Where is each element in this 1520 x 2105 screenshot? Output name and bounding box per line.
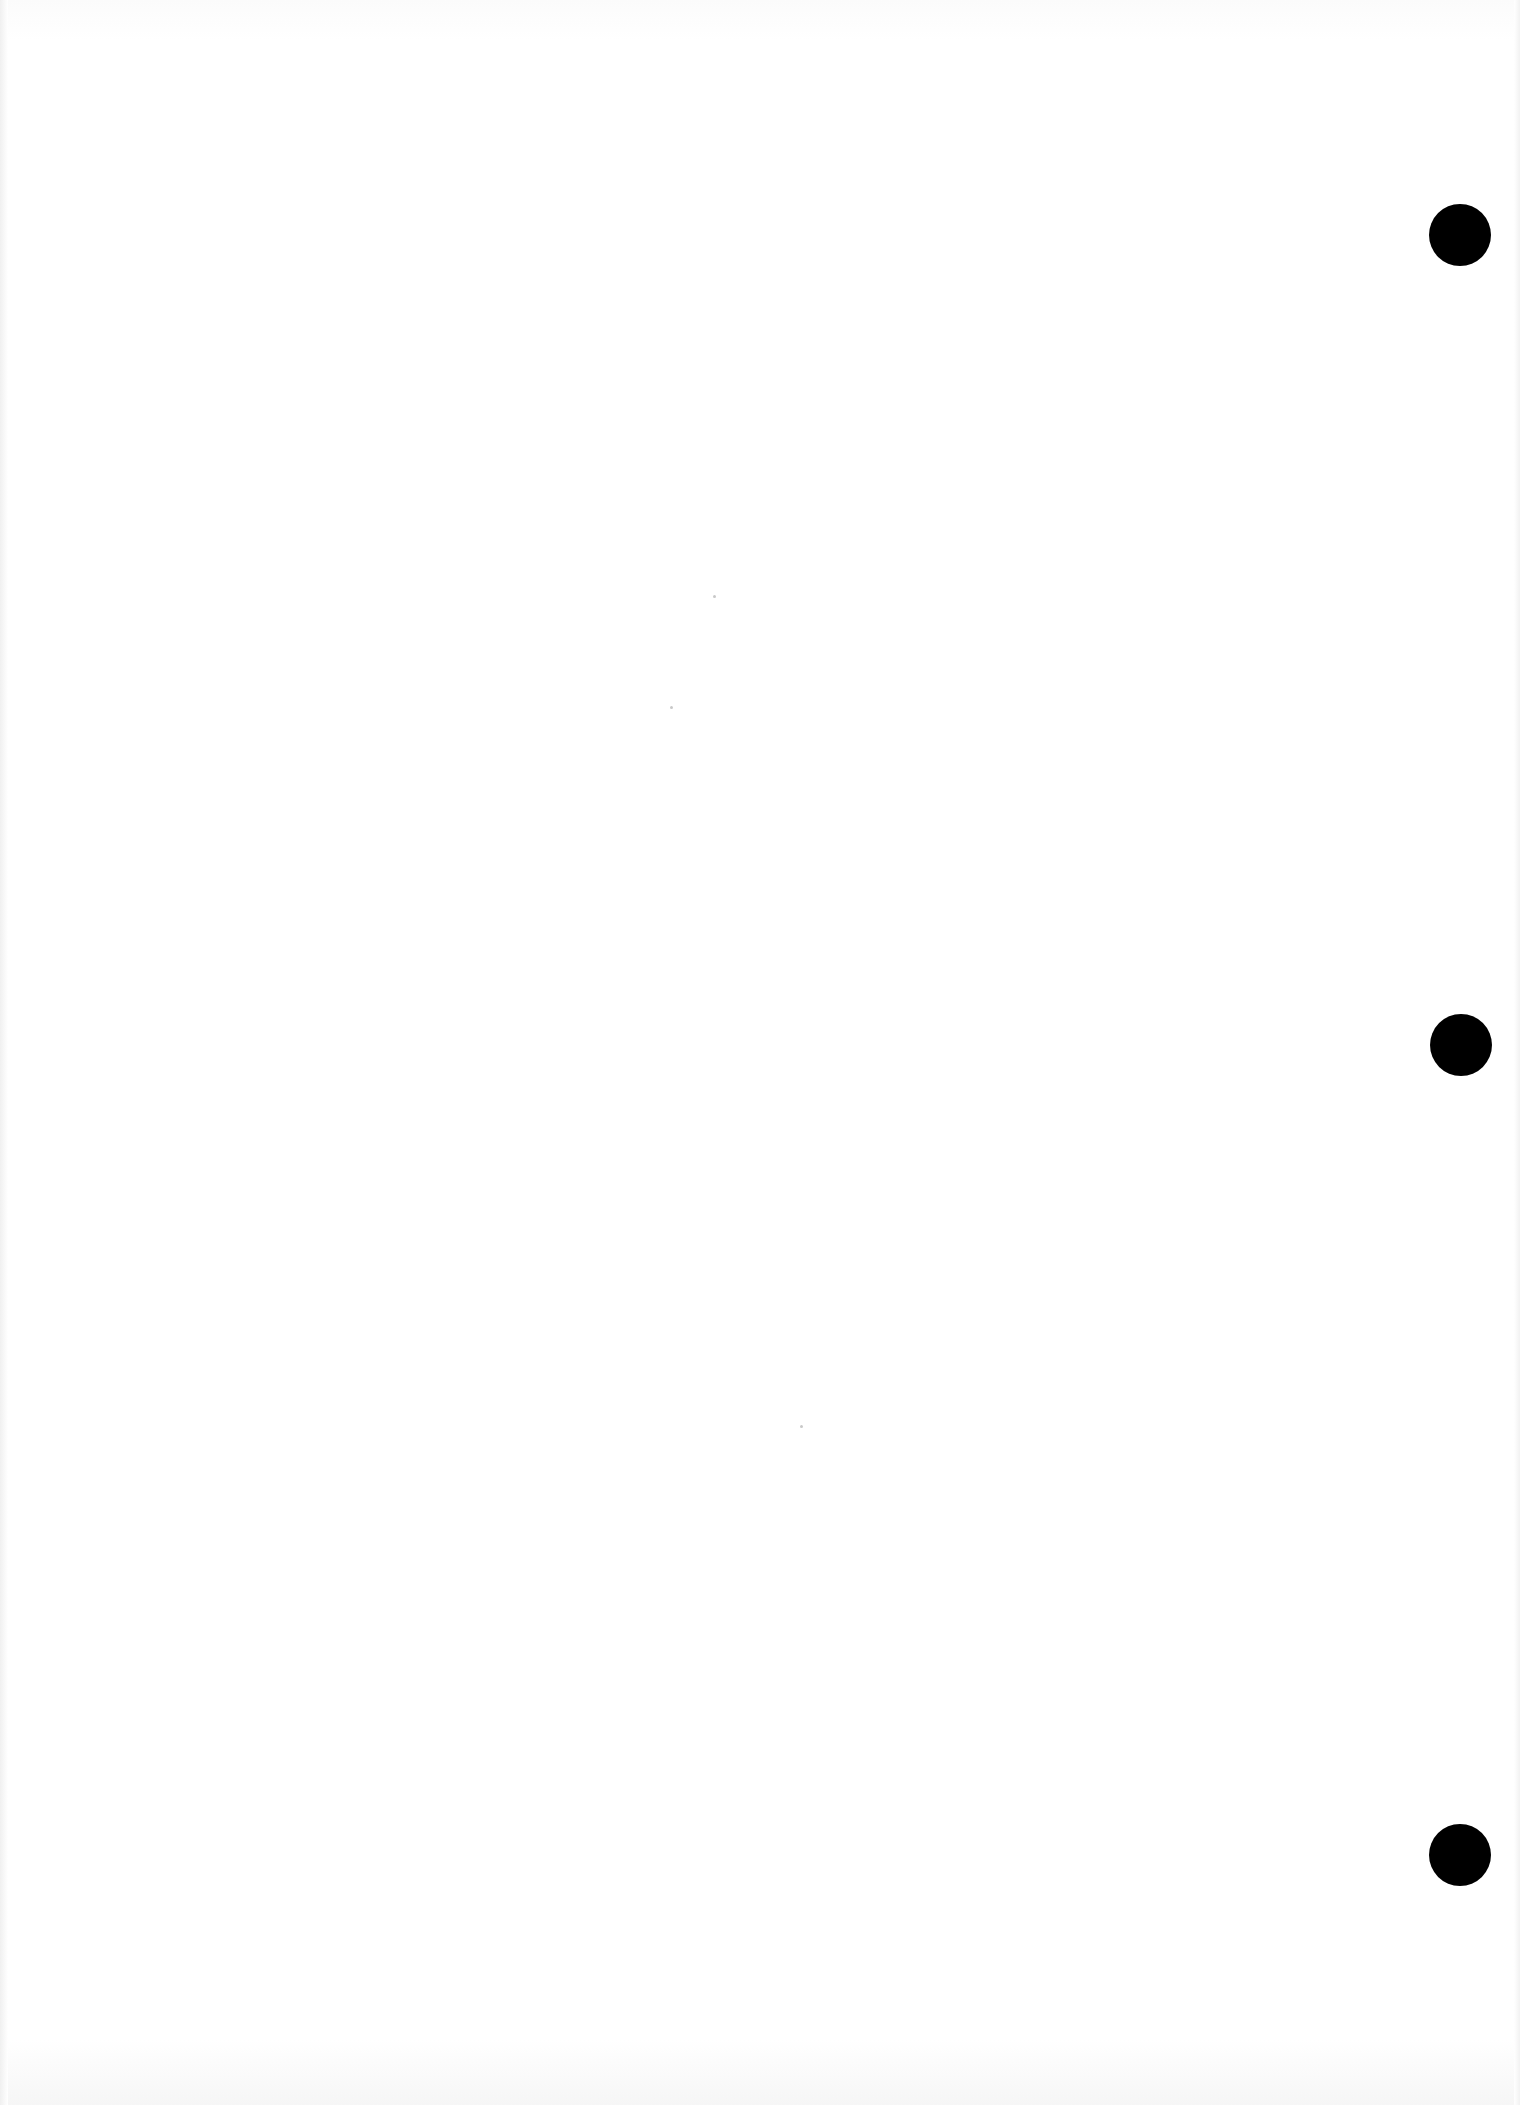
punch-hole-middle — [1430, 1014, 1492, 1076]
punch-hole-bottom — [1429, 1824, 1491, 1886]
scan-edge-right — [1514, 0, 1520, 2105]
blank-page — [0, 0, 1520, 2105]
scan-edge-left — [0, 0, 8, 2105]
scan-speck — [800, 1425, 803, 1428]
punch-hole-top — [1429, 204, 1491, 266]
scan-speck — [670, 706, 673, 709]
scan-speck — [713, 595, 716, 598]
